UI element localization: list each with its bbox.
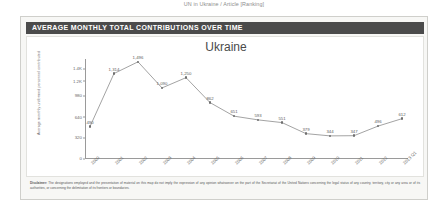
data-point-label: 551 (278, 116, 285, 121)
y-axis-title: Average monthly uniformed personnel cont… (37, 45, 41, 141)
data-point-label: 862 (206, 96, 213, 101)
disclaimer-label: Disclaimer: (30, 181, 47, 185)
data-point-label: 1,250 (181, 71, 192, 76)
chart-area: Ukraine Average monthly uniformed person… (26, 36, 424, 177)
data-point-label: 344 (326, 129, 333, 134)
series-line (85, 59, 407, 158)
y-tick-label: 980 (75, 93, 82, 98)
y-tick-label: 1.4K (73, 66, 82, 71)
top-caption: UN in Ukraine / Article [Ranking] (0, 0, 448, 9)
y-tick-label: 640 (75, 114, 82, 119)
chart-title: Ukraine (27, 40, 425, 54)
data-point-label: 490 (86, 120, 93, 125)
y-tick-label: 0 (80, 156, 82, 161)
data-point-label: 593 (254, 113, 261, 118)
disclaimer: Disclaimer: The designations employed an… (26, 180, 424, 197)
plot-region: 03206409801.2K1.4K 200020012002200320042… (85, 59, 407, 158)
data-point-label: 651 (230, 109, 237, 114)
y-tick-label: 320 (75, 135, 82, 140)
data-point-label: 347 (350, 129, 357, 134)
screenshot-root: UN in Ukraine / Article [Ranking] AVERAG… (0, 0, 448, 219)
data-point-label: 1,090 (157, 81, 168, 86)
data-point-label: 612 (398, 112, 405, 117)
data-point-label: 379 (302, 127, 309, 132)
data-point-label: 1,314 (109, 67, 120, 72)
disclaimer-text: The designations employed and the presen… (30, 181, 420, 190)
y-tick-label: 1.2K (73, 78, 82, 83)
chart-card: AVERAGE MONTHLY TOTAL CONTRIBUTIONS OVER… (20, 16, 428, 200)
data-point-label: 1,496 (133, 55, 144, 60)
data-point (89, 125, 92, 128)
card-header-title: AVERAGE MONTHLY TOTAL CONTRIBUTIONS OVER… (26, 22, 424, 34)
data-point-label: 496 (374, 119, 381, 124)
